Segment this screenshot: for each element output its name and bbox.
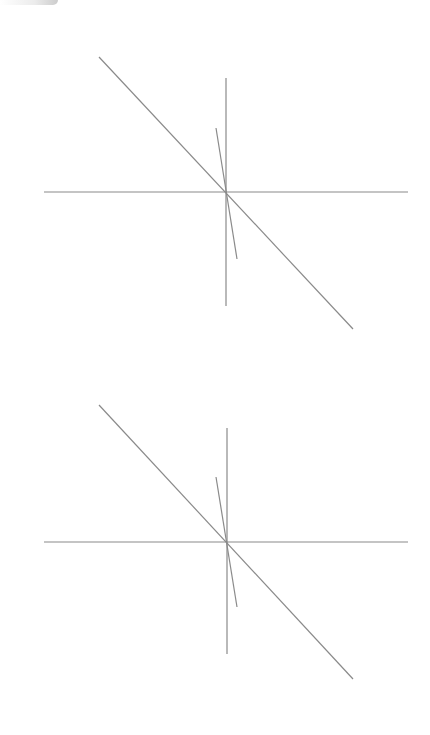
diagram-canvas <box>0 0 430 735</box>
bottom-diagram <box>44 405 408 679</box>
top-diagram <box>44 57 408 329</box>
